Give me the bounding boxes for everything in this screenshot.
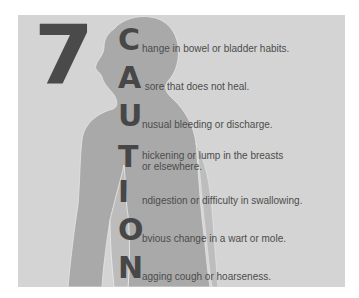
warning-text: hange in bowel or bladder habits. — [142, 43, 289, 55]
warning-sign-cough: N agging cough or hoarseness. — [118, 253, 271, 283]
acronym-letter: I — [118, 177, 142, 207]
caution-poster: 7 C hange in bowel or bladder habits. A … — [18, 15, 345, 287]
warning-sign-bleeding: U nusual bleeding or discharge. — [118, 101, 273, 131]
warning-text: bvious change in a wart or mole. — [142, 233, 286, 245]
warning-sign-lump: T hickening or lump in the breasts or el… — [118, 142, 283, 172]
acronym-letter: U — [118, 101, 142, 131]
acronym-letter: O — [118, 215, 142, 245]
acronym-letter: T — [118, 142, 142, 172]
warning-text: hickening or lump in the breasts or else… — [142, 150, 283, 172]
warning-text: nusual bleeding or discharge. — [142, 119, 273, 131]
warning-sign-wart: O bvious change in a wart or mole. — [118, 215, 286, 245]
warning-text: agging cough or hoarseness. — [142, 271, 271, 283]
warning-text: sore that does not heal. — [142, 81, 249, 93]
warning-sign-sore: A sore that does not heal. — [118, 63, 249, 93]
warning-text: ndigestion or difficulty in swallowing. — [142, 195, 302, 207]
acronym-letter: C — [118, 25, 142, 55]
acronym-letter: A — [118, 63, 142, 93]
warning-sign-indigestion: I ndigestion or difficulty in swallowing… — [118, 177, 302, 207]
warning-sign-change: C hange in bowel or bladder habits. — [118, 25, 289, 55]
number-seven: 7 — [34, 15, 92, 97]
acronym-letter: N — [118, 253, 142, 283]
